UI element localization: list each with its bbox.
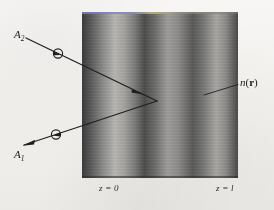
incoming-ray-arrowhead-icon xyxy=(132,89,144,95)
ray-label-A2: A2 xyxy=(14,28,24,43)
incoming-ray-A2 xyxy=(26,38,157,101)
outgoing-ray-arrowhead-icon xyxy=(23,140,36,146)
outgoing-ray-A1 xyxy=(24,101,157,145)
ray-label-A1: A1 xyxy=(14,148,24,163)
figure-canvas: A2 A1 z = 0 z = l n(r) xyxy=(0,0,274,210)
refractive-index-label: n(r) xyxy=(240,76,258,88)
outgoing-ray-direction-marker-icon xyxy=(51,130,60,139)
index-label-leader-line xyxy=(204,85,238,96)
ray-diagram-layer xyxy=(0,0,274,210)
boundary-label-z-equals-l: z = l xyxy=(216,183,234,193)
boundary-label-z-equals-0: z = 0 xyxy=(99,183,119,193)
